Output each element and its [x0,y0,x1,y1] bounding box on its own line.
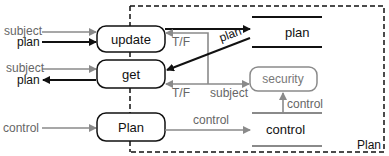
plan-control-label: control [3,121,39,135]
update-plan-label: plan [17,35,40,49]
subject-to-security-label: subject [210,86,249,100]
tf-update-label: T/F [172,35,190,49]
control-store-label: control [266,122,305,137]
control-to-security-label: control [287,97,323,111]
security-label: security [262,72,303,86]
diagram-canvas: Plan subject plan subject plan control u… [0,0,389,156]
tf-get-label: T/F [172,86,190,100]
plan-store-label: plan [285,25,310,40]
container-label: Plan [357,138,381,152]
get-process-label: get [122,67,140,82]
control-to-store-label: control [193,113,229,127]
update-process-label: update [111,32,151,47]
get-plan-label: plan [17,73,40,87]
plan-process-label: Plan [118,120,144,135]
